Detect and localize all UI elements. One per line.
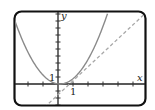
y-tick-label-1: 1 [49, 72, 55, 83]
graph-figure: y x 1 1 [0, 0, 155, 110]
tangent-line-dashed [45, 15, 144, 107]
parabola-curve [10, 6, 108, 84]
plot-frame [15, 12, 146, 106]
x-tick-label-1: 1 [70, 86, 76, 97]
y-axis-label: y [60, 10, 67, 21]
x-axis-label: x [137, 72, 143, 83]
